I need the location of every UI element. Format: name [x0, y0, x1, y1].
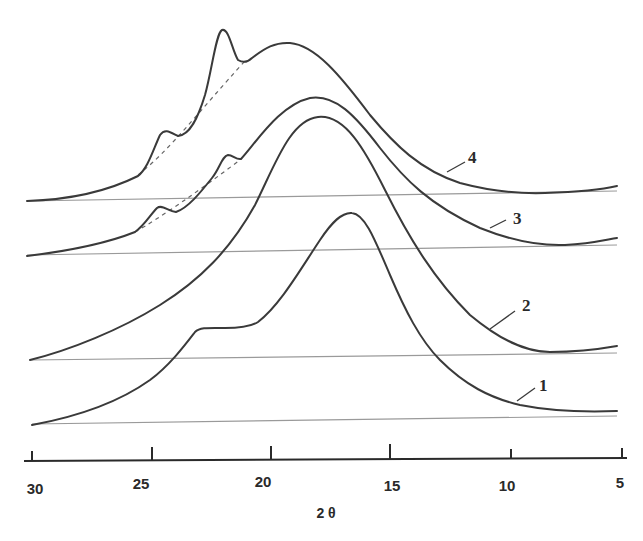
background-dash-4: [138, 61, 245, 175]
curve-1: [32, 213, 617, 425]
x-tick-label-5: 5: [616, 474, 624, 491]
xrd-chart: 4 3 2 1 30 25 20 15 10 5 2 θ: [0, 0, 643, 541]
curve-label-4: 4: [468, 148, 477, 167]
x-tick-label-15: 15: [384, 477, 401, 494]
curve-label-2: 2: [522, 296, 531, 315]
baseline-3: [27, 245, 617, 255]
curve-label-3: 3: [513, 209, 522, 228]
x-axis-title: 2 θ: [316, 505, 335, 521]
x-tick-label-10: 10: [499, 477, 516, 494]
x-tick-label-30: 30: [27, 480, 44, 497]
x-axis-line: [24, 458, 627, 461]
x-tick-label-25: 25: [133, 475, 150, 492]
background-dash-3: [135, 160, 240, 232]
curve-3: [27, 98, 617, 256]
baseline-1: [32, 416, 617, 424]
leader-3: [490, 220, 506, 228]
leader-4: [447, 162, 465, 172]
leader-1: [517, 388, 535, 401]
x-tick-label-20: 20: [255, 473, 272, 490]
leader-2: [490, 311, 515, 329]
baseline-2: [30, 353, 617, 360]
curve-4: [27, 30, 617, 201]
curve-label-1: 1: [539, 376, 548, 395]
